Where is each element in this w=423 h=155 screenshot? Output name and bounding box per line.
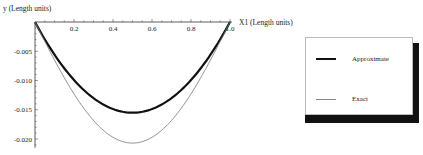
axes bbox=[35, 22, 232, 148]
y-tick-label: -0.010 bbox=[14, 77, 33, 85]
legend-label: Approximate bbox=[352, 55, 389, 63]
series bbox=[35, 22, 230, 143]
x-axis-label: X1 (Length units) bbox=[239, 18, 293, 27]
x-tick-label: 0.6 bbox=[148, 25, 157, 33]
y-tick-label: -0.020 bbox=[14, 136, 33, 144]
legend: Approximate Exact bbox=[305, 37, 413, 115]
series-exact bbox=[35, 22, 230, 143]
y-axis-label: y (Length units) bbox=[3, 4, 52, 13]
legend-item-approximate: Approximate bbox=[316, 55, 389, 63]
legend-swatch-approximate bbox=[316, 58, 336, 60]
series-approximate bbox=[35, 22, 230, 113]
y-tick-label: -0.005 bbox=[14, 48, 33, 56]
line-chart: 0.20.40.60.81.0-0.005-0.010-0.015-0.020 … bbox=[0, 0, 300, 155]
y-tick-label: -0.015 bbox=[14, 106, 33, 114]
x-tick-label: 0.8 bbox=[187, 25, 196, 33]
ticks: 0.20.40.60.81.0-0.005-0.010-0.015-0.020 bbox=[14, 19, 235, 145]
legend-label: Exact bbox=[352, 95, 368, 103]
legend-item-exact: Exact bbox=[316, 95, 368, 103]
x-tick-label: 0.2 bbox=[70, 25, 79, 33]
legend-swatch-exact bbox=[316, 99, 336, 100]
x-tick-label: 0.4 bbox=[109, 25, 118, 33]
